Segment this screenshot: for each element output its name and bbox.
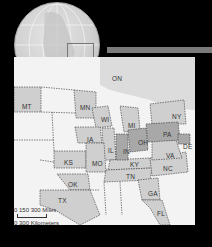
scale-bar: 0 150 300 Miles 0 300 Kilometers <box>14 207 59 225</box>
state-label-ky: KY <box>130 161 139 168</box>
title-bar <box>107 47 212 53</box>
state-label-nc: NC <box>163 165 173 172</box>
state-label-va: VA <box>166 152 175 159</box>
state-label-in: IN <box>123 148 130 155</box>
scale-ruler <box>17 214 47 218</box>
state-label-de: DE <box>183 143 192 150</box>
state-label-mo: MO <box>92 160 103 167</box>
scale-km-label: 0 300 Kilometers <box>14 220 59 225</box>
scale-miles-label: 0 150 300 Miles <box>14 207 59 213</box>
region-map: 0 150 300 Miles 0 300 Kilometers <box>14 57 195 225</box>
state-label-ia: IA <box>87 136 94 143</box>
state-label-tn: TN <box>126 173 135 180</box>
state-label-ga: GA <box>148 190 158 197</box>
state-label-il: IL <box>108 147 114 154</box>
state-label-pa: PA <box>163 131 172 138</box>
state-boundaries <box>14 57 195 225</box>
state-label-ny: NY <box>172 113 181 120</box>
state-label-ks: KS <box>64 159 73 166</box>
state-label-mi: MI <box>128 122 136 129</box>
state-label-oh: OH <box>138 139 148 146</box>
state-label-mt: MT <box>22 103 32 110</box>
state-label-on: ON <box>112 75 122 82</box>
state-label-mn: MN <box>80 104 91 111</box>
state-label-fl: FL <box>157 210 165 217</box>
state-label-ok: OK <box>68 181 78 188</box>
state-label-tx: TX <box>58 197 67 204</box>
state-label-wi: WI <box>101 116 109 123</box>
